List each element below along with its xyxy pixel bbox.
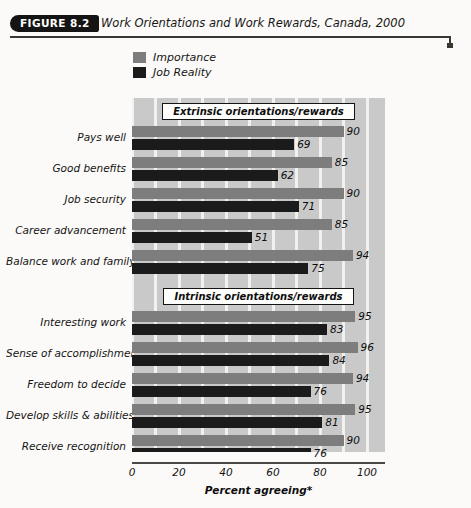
section-band-intrinsic: Intrinsic orientations/rewards [132,283,385,309]
bar-value-label-importance: 96 [361,341,374,353]
bar-job-reality [132,417,322,428]
bar-job-reality [132,324,327,335]
bar-value-label-importance: 95 [358,310,371,322]
bar-importance [132,219,332,230]
gridline [201,98,204,452]
bar-value-label-importance: 90 [347,187,360,199]
x-tick-label: 20 [172,466,185,478]
x-axis-line [132,462,385,464]
figure-header: FIGURE 8.2 Work Orientations and Work Re… [10,15,461,39]
bar-importance [132,126,344,137]
header-rule-end-cap-icon [447,43,453,48]
category-label: Develop skills & abilities [6,409,132,421]
chart-plot-area: Extrinsic orientations/rewardsIntrinsic … [132,98,385,452]
category-label: Interesting work [6,316,132,328]
bar-value-label-job-reality: 69 [297,138,310,150]
category-label: Job security [6,193,132,205]
x-axis-tick-labels: 020406080100 [132,466,385,482]
bar-value-label-job-reality: 62 [281,169,294,181]
bar-value-label-importance: 94 [356,372,369,384]
bar-importance [132,250,353,261]
x-tick-label: 80 [313,466,326,478]
bar-job-reality [132,201,299,212]
gridline [178,98,181,452]
figure-title: Work Orientations and Work Rewards, Cana… [101,15,405,32]
gridlines [132,98,385,452]
x-tick-label: 0 [129,466,136,478]
bar-job-reality [132,386,311,397]
bar-value-label-importance: 85 [335,218,348,230]
legend-label-importance: Importance [153,51,216,64]
bar-job-reality [132,232,252,243]
category-label: Good benefits [6,162,132,174]
bar-importance [132,311,355,322]
gridline [272,98,275,452]
category-label: Freedom to decide [6,378,132,390]
section-band-extrinsic: Extrinsic orientations/rewards [132,98,385,124]
legend-swatch-icon-importance [133,52,146,63]
gridline [295,98,298,452]
bar-importance [132,157,332,168]
gridline [319,98,322,452]
category-label: Receive recognition [6,440,132,452]
x-tick-label: 60 [266,466,279,478]
header-divider-rule [10,36,451,38]
bar-value-label-job-reality: 81 [325,416,338,428]
category-label: Balance work and family [6,255,132,267]
bar-importance [132,404,355,415]
section-label: Intrinsic orientations/rewards [163,288,353,305]
bar-value-label-importance: 90 [347,434,360,446]
x-axis-title: Percent agreeing* [132,484,385,496]
gridline [225,98,228,452]
gridline [154,98,157,452]
category-label: Sense of accomplishment [6,347,132,359]
bar-importance [132,188,344,199]
gridline [132,98,134,452]
bar-job-reality [132,448,311,452]
bar-value-label-importance: 95 [358,403,371,415]
bar-value-label-job-reality: 75 [311,262,324,274]
bar-job-reality [132,263,308,274]
bar-value-label-job-reality: 76 [314,447,327,459]
bar-value-label-job-reality: 51 [255,231,268,243]
legend-item-job-reality: Job Reality [133,65,216,80]
legend-item-importance: Importance [133,50,216,65]
bar-job-reality [132,355,329,366]
bar-importance [132,373,353,384]
bar-value-label-importance: 90 [347,125,360,137]
category-label: Career advancement [6,224,132,236]
bar-value-label-importance: 85 [335,156,348,168]
bar-job-reality [132,170,278,181]
bar-value-label-importance: 94 [356,249,369,261]
gridline [248,98,251,452]
category-axis-labels: Pays wellGood benefitsJob securityCareer… [0,98,132,452]
bar-importance [132,342,358,353]
bar-value-label-job-reality: 76 [314,385,327,397]
x-tick-label: 100 [357,466,377,478]
bar-importance [132,435,344,446]
bar-value-label-job-reality: 71 [302,200,315,212]
gridline [366,98,369,452]
gridline [342,98,345,452]
bar-job-reality [132,139,294,150]
x-tick-label: 40 [219,466,232,478]
bar-value-label-job-reality: 83 [330,323,343,335]
figure-number-badge: FIGURE 8.2 [10,15,99,32]
chart-legend: Importance Job Reality [133,50,216,80]
legend-swatch-icon-job-reality [133,67,146,78]
bar-value-label-job-reality: 84 [332,354,345,366]
category-label: Pays well [6,131,132,143]
section-label: Extrinsic orientations/rewards [162,103,355,120]
legend-label-job-reality: Job Reality [153,66,212,79]
